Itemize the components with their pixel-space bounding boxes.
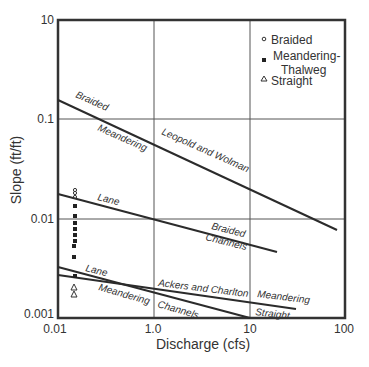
point-meandering [73,221,77,225]
point-meandering [72,244,76,248]
legend-braided-icon [262,37,266,41]
legend-meandering-label: Meandering- [273,49,340,63]
point-braided [73,195,76,198]
annotation-meandering-straight-1: Meandering [257,288,311,305]
y-tick-10: 10 [41,13,55,27]
point-meandering [73,233,77,237]
x-axis-title: Discharge (cfs) [156,336,250,352]
point-meandering [73,214,77,218]
point-meandering [73,239,77,243]
x-tick-1.0: 1.0 [145,322,162,336]
data-points [71,188,77,297]
y-tick-0.1: 0.1 [37,112,54,126]
legend-straight-label: Straight [271,74,313,88]
point-meandering [72,255,76,259]
legend-meandering-icon [262,58,266,62]
x-tick-0.01: 0.01 [43,322,67,336]
point-straight [71,284,77,290]
y-axis-ticks: 10 0.1 0.01 0.001 [24,13,54,321]
y-tick-0.001: 0.001 [24,307,54,321]
annotation-leopold-wolman: Leopold and Wolman [160,126,251,175]
point-braided [73,191,76,194]
point-meandering [73,274,77,278]
x-tick-10: 10 [243,322,257,336]
point-meandering [73,204,77,208]
x-axis-ticks: 0.01 1.0 10 100 [43,322,354,336]
y-tick-0.01: 0.01 [31,212,55,226]
slope-discharge-chart: Braided Meandering- Thalweg Straight Bra… [0,0,369,367]
legend: Braided Meandering- Thalweg Straight [261,33,340,88]
y-axis-title: Slope (ft/ft) [8,136,24,204]
point-straight [71,291,77,297]
point-meandering [73,227,77,231]
legend-straight-icon [261,76,267,81]
legend-braided-label: Braided [271,33,312,47]
annotation-meandering: Meandering [96,122,149,154]
x-tick-100: 100 [334,322,354,336]
